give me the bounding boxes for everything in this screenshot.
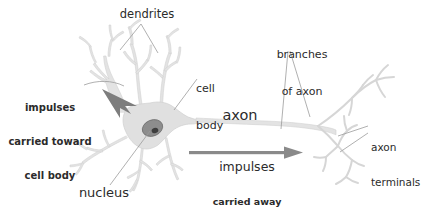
dendrite-branch (102, 130, 110, 147)
axon-branch (344, 116, 347, 131)
axon-branch (326, 146, 338, 157)
label-axon-terminals-line2: terminals (371, 177, 431, 189)
label-cell-body-line1: cell (196, 83, 244, 95)
dendrite-branch (160, 52, 171, 110)
label-impulses-away-line1: impulses (192, 160, 302, 174)
dendrite-branch (112, 31, 124, 41)
label-dendrites: dendrites (104, 8, 190, 21)
axon-branch (352, 85, 363, 98)
dendrite-branch (167, 28, 179, 38)
dendrite-branch (156, 155, 170, 166)
axon-branch (376, 77, 394, 80)
dendrite-branch (108, 39, 113, 56)
label-impulses-carried-away-from-cell-body: impulses carried away from cell body (192, 138, 302, 210)
dendrite-branch (150, 66, 163, 78)
label-impulses-toward-line3: cell body (2, 170, 98, 181)
dendrite-branch (130, 43, 143, 108)
label-impulses-toward-line2: carried toward (2, 136, 98, 147)
label-branches-of-axon: branches of axon (262, 24, 342, 123)
axon-branch (314, 157, 326, 158)
leader-dendrites-right (141, 24, 158, 53)
label-nucleus: nucleus (66, 186, 142, 201)
dendrite-branch (89, 46, 96, 63)
leader-cell-body (174, 79, 197, 110)
label-branches-axon-line2: of axon (262, 86, 342, 98)
leader-axon-terminals-b (340, 133, 368, 152)
axon-branch (352, 160, 364, 166)
label-axon: axon (214, 107, 266, 123)
label-branches-axon-line1: branches (262, 49, 342, 61)
dendrite-branch (165, 138, 179, 180)
dendrite-branch (147, 45, 152, 61)
dendrite-branch (109, 25, 113, 40)
axon-branch (376, 80, 385, 97)
axon-branch (323, 157, 326, 171)
label-impulses-away-line2: carried away (192, 197, 302, 207)
dendrite-branch (79, 36, 91, 47)
label-axon-terminals-line1: axon (371, 142, 431, 154)
axon-branch (346, 177, 358, 183)
dendrite-branch (140, 160, 153, 171)
label-axon-terminals: axon terminals (371, 118, 431, 210)
axon-branch (346, 160, 352, 177)
cell-body (123, 102, 200, 149)
neuron-diagram-canvas: dendrites impulses carried toward cell b… (0, 0, 431, 210)
axon-branch (336, 177, 346, 184)
dendrite-branch (176, 47, 181, 63)
label-impulses-toward-line1: impulses (2, 102, 98, 113)
